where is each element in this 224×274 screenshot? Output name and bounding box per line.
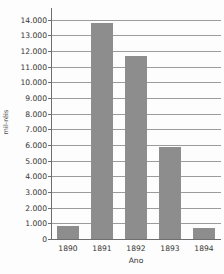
x-axis-tick-labels: 18901891189218931894	[51, 244, 221, 256]
y-tick-label: 6.000	[2, 142, 47, 150]
y-tick-label: 7.000	[2, 126, 47, 134]
y-tick-label: 9.000	[2, 95, 47, 103]
y-tick-label: 10.000	[2, 79, 47, 87]
y-tick-label: 3.000	[2, 189, 47, 197]
y-tick-label: 2.000	[2, 205, 47, 213]
x-tick-label: 1893	[153, 244, 187, 253]
bars-layer	[51, 8, 221, 240]
y-tick-label: 5.000	[2, 158, 47, 166]
y-tick-label: 0	[2, 236, 47, 244]
bar-1891	[91, 23, 112, 239]
y-tick-label: 8.000	[2, 111, 47, 119]
y-tick-label: 11.000	[2, 64, 47, 72]
x-axis-title: Ano	[51, 256, 221, 265]
x-tick-label: 1892	[119, 244, 153, 253]
y-axis-tick-labels: 01.0002.0003.0004.0005.0006.0007.0008.00…	[0, 0, 47, 250]
bar-1890	[57, 226, 78, 239]
bar-1894	[193, 228, 214, 239]
y-tick-label: 13.000	[2, 32, 47, 40]
x-tick-label: 1891	[85, 244, 119, 253]
x-axis-line	[51, 239, 221, 240]
bar-1892	[125, 56, 146, 239]
y-tick-label: 14.000	[2, 17, 47, 25]
y-tick-label: 4.000	[2, 173, 47, 181]
bar-1893	[159, 147, 180, 239]
plot-area	[51, 8, 221, 240]
bar-chart-figure: mil-réis 01.0002.0003.0004.0005.0006.000…	[0, 0, 224, 274]
y-tick-label: 12.000	[2, 48, 47, 56]
y-tick-label: 1.000	[2, 220, 47, 228]
x-tick-label: 1890	[51, 244, 85, 253]
x-tick-label: 1894	[187, 244, 221, 253]
